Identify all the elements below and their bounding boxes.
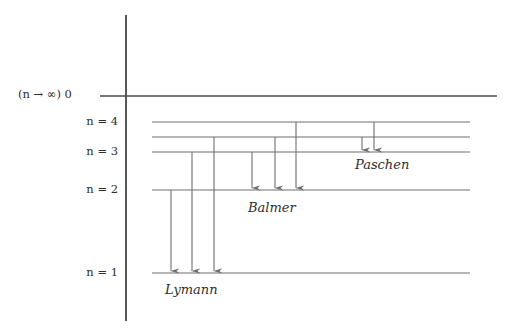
energy-level-diagram: (n → ∞) 0 n = 4 n = 3 n = 2 n = 1 Lymann… [0, 0, 509, 335]
series-label-balmer-text: Balmer [248, 200, 296, 215]
level-label-n2: n = 2 [72, 184, 118, 196]
diagram-canvas [0, 0, 509, 335]
zero-level-label: (n → ∞) 0 [18, 89, 72, 101]
level-label-n3: n = 3 [72, 146, 118, 158]
level-label-n1-text: n = 1 [86, 265, 118, 279]
zero-level-label-text: (n → ∞) 0 [18, 87, 72, 101]
series-label-paschen-text: Paschen [355, 157, 409, 172]
level-label-n4: n = 4 [72, 116, 118, 128]
level-label-n2-text: n = 2 [86, 182, 118, 196]
level-label-n4-text: n = 4 [86, 114, 118, 128]
level-label-n3-text: n = 3 [86, 144, 118, 158]
series-label-lymann-text: Lymann [165, 282, 218, 297]
series-label-balmer: Balmer [248, 201, 296, 214]
series-label-lymann: Lymann [165, 283, 218, 296]
level-label-n1: n = 1 [72, 267, 118, 279]
series-label-paschen: Paschen [355, 158, 409, 171]
